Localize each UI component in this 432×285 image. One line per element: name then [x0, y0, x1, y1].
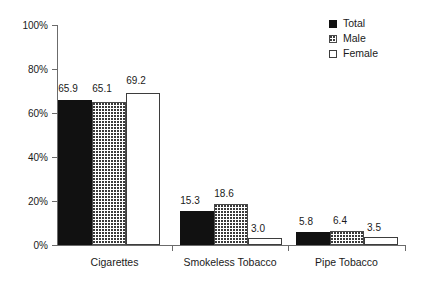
bar-chart: 100% 80% 60% 40% 20% 0% 65.9 65.1 69.2 1… — [0, 0, 432, 285]
x-axis-line — [57, 245, 406, 246]
legend-label-male: Male — [343, 33, 366, 44]
bar-cigarettes-female — [126, 93, 160, 245]
y-axis-tick-label-20: 20% — [6, 197, 48, 207]
x-axis-tick-mark — [405, 246, 406, 251]
legend-item-total: Total — [329, 16, 378, 31]
value-label-smokeless-female: 3.0 — [238, 224, 278, 234]
x-axis-category-label-smokeless: Smokeless Tobacco — [172, 256, 288, 268]
x-axis-tick-mark — [172, 246, 173, 251]
value-label-smokeless-male: 18.6 — [204, 189, 244, 199]
value-label-cigarettes-female: 69.2 — [116, 76, 156, 86]
legend-swatch-total-icon — [329, 20, 337, 28]
bar-pipe-male — [330, 231, 364, 245]
legend-label-total: Total — [343, 18, 365, 29]
legend-item-female: Female — [329, 46, 378, 61]
bar-smokeless-female — [248, 238, 282, 245]
bar-pipe-total — [296, 232, 330, 245]
bar-pipe-female — [364, 237, 398, 245]
y-axis-tick-label-100: 100% — [6, 21, 48, 31]
legend-label-female: Female — [343, 48, 378, 59]
x-axis-tick-mark — [288, 246, 289, 251]
x-axis-category-label-cigarettes: Cigarettes — [57, 256, 172, 268]
legend: Total Male Female — [329, 16, 378, 61]
bar-cigarettes-total — [58, 100, 92, 245]
y-axis-tick-label-60: 60% — [6, 109, 48, 119]
y-axis-tick-label-80: 80% — [6, 65, 48, 75]
bar-cigarettes-male — [92, 102, 126, 245]
legend-item-male: Male — [329, 31, 378, 46]
value-label-pipe-female: 3.5 — [354, 223, 394, 233]
x-axis-category-label-pipe: Pipe Tobacco — [288, 256, 405, 268]
y-axis-tick-label-40: 40% — [6, 153, 48, 163]
y-axis-tick-label-0: 0% — [6, 241, 48, 251]
legend-swatch-female-icon — [329, 50, 337, 58]
legend-swatch-male-icon — [329, 35, 337, 43]
bar-smokeless-total — [180, 211, 214, 245]
